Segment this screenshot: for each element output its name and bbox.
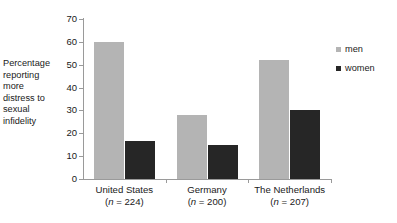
y-axis-title-line: distress to (3, 93, 65, 105)
y-axis-tick-label: 20 (66, 127, 77, 138)
legend-swatch-icon (336, 66, 341, 71)
y-axis-title: Percentage reporting more distress to se… (3, 58, 65, 128)
bar-men-0 (94, 42, 124, 179)
category-name: United States (96, 184, 154, 195)
x-axis-line (83, 179, 331, 180)
y-axis-tick-label: 10 (66, 150, 77, 161)
bar-chart-figure: Percentage reporting more distress to se… (0, 0, 397, 223)
bar-men-2 (259, 60, 289, 179)
x-axis-separator (248, 179, 249, 183)
y-axis-tick-label: 30 (66, 104, 77, 115)
category-sample-size: (n = 200) (166, 196, 249, 208)
bar-women-1 (208, 145, 238, 179)
y-axis-tick-mark (79, 19, 83, 20)
y-axis-tick-label: 70 (66, 13, 77, 24)
y-axis-tick-mark (79, 88, 83, 89)
bar-women-0 (125, 141, 155, 179)
y-axis-tick-mark (79, 156, 83, 157)
x-axis-separator (166, 179, 167, 183)
y-axis-tick-mark (79, 42, 83, 43)
y-axis-tick-mark (79, 65, 83, 66)
legend: men women (336, 44, 375, 82)
legend-item-men[interactable]: men (336, 44, 375, 55)
y-axis-tick-label: 60 (66, 36, 77, 47)
y-axis-title-line: sexual (3, 104, 65, 116)
y-axis-tick-mark (79, 110, 83, 111)
legend-swatch-icon (336, 47, 341, 52)
y-axis-tick-label: 0 (72, 173, 77, 184)
y-axis-title-line: more (3, 81, 65, 93)
x-axis-category-label: United States(n = 224) (83, 184, 166, 209)
bar-women-2 (290, 110, 320, 179)
x-axis-category-label: The Netherlands(n = 207) (248, 184, 331, 209)
category-sample-size: (n = 224) (83, 196, 166, 208)
y-axis-tick-mark (79, 179, 83, 180)
bar-men-1 (177, 115, 207, 179)
y-axis-title-line: Percentage (3, 58, 65, 70)
x-axis-category-label: Germany(n = 200) (166, 184, 249, 209)
y-axis-tick-label: 50 (66, 59, 77, 70)
category-name: The Netherlands (254, 184, 325, 195)
y-axis-tick-label: 40 (66, 82, 77, 93)
category-sample-size: (n = 207) (248, 196, 331, 208)
legend-label: women (345, 63, 375, 74)
legend-label: men (345, 44, 363, 55)
y-axis-title-line: reporting (3, 70, 65, 82)
category-name: Germany (187, 184, 226, 195)
x-axis-separator (331, 179, 332, 183)
y-axis-title-line: infidelity (3, 116, 65, 128)
y-axis-tick-mark (79, 133, 83, 134)
legend-item-women[interactable]: women (336, 63, 375, 74)
y-axis-line (83, 18, 84, 180)
plot-area: 010203040506070 (83, 18, 331, 180)
